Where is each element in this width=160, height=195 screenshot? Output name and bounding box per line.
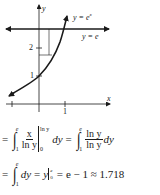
- curve-exp: [10, 16, 67, 95]
- result: e − 1 ≈ 1.718: [66, 168, 124, 180]
- x-tick-1: 1: [63, 108, 67, 116]
- y-tick-1: 1: [30, 72, 34, 80]
- equation-line-2: = ∫ e1 dy = y e0 = e − 1 ≈ 1.718: [0, 161, 124, 187]
- fraction: xln y: [22, 129, 37, 150]
- x-axis-label: x: [107, 95, 111, 103]
- equation-line-1: = ∫ e1 xln y ln y0 dy = ∫ e1 ln yln y dy: [0, 126, 114, 152]
- curve-label: y = ex: [73, 11, 92, 22]
- line-label: y = e: [82, 33, 99, 41]
- integral-sign: ∫: [13, 129, 17, 149]
- y-axis-label: y: [42, 5, 46, 13]
- y-tick-2: 2: [29, 44, 33, 52]
